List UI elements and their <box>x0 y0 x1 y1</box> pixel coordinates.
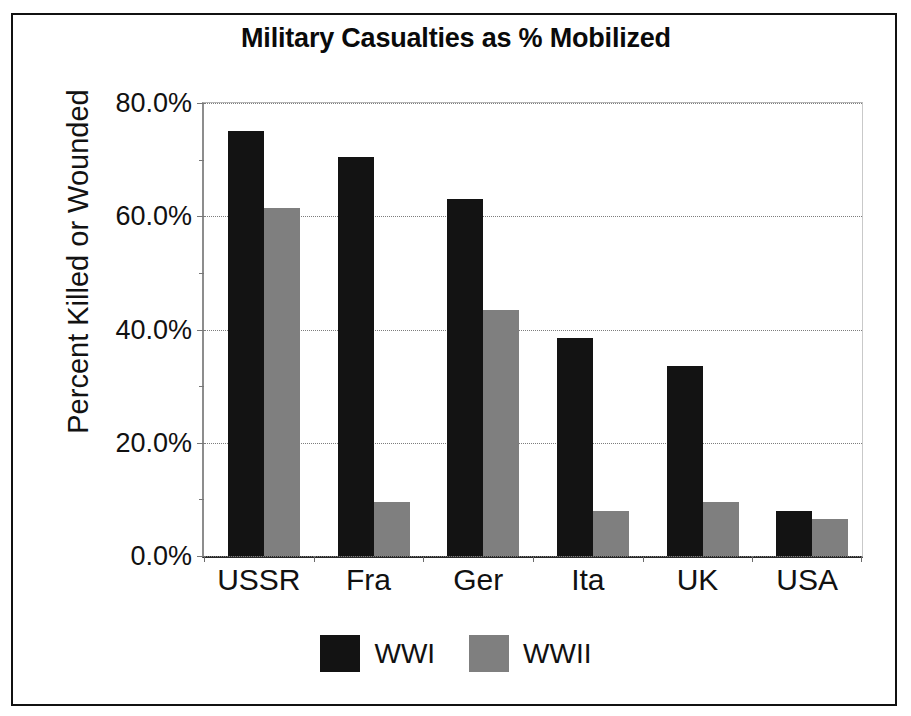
y-tick-label: 60.0% <box>115 201 192 232</box>
bar-group-ussr[interactable]: USSR <box>204 103 314 556</box>
y-tick-label: 40.0% <box>115 314 192 345</box>
bar-group-ita[interactable]: Ita <box>533 103 643 556</box>
x-tick-label-fra: Fra <box>346 563 391 597</box>
bar-ita-wwi[interactable] <box>557 338 593 556</box>
x-tick-mark <box>204 556 205 562</box>
x-tick-label-ita: Ita <box>571 563 604 597</box>
legend-swatch-wwii <box>469 635 509 672</box>
bar-usa-wwi[interactable] <box>776 511 812 556</box>
bar-fra-wwi[interactable] <box>338 157 374 556</box>
y-tick-label: 20.0% <box>115 427 192 458</box>
y-tick-mark <box>197 216 204 217</box>
plot-area: 0.0%20.0%40.0%60.0%80.0% USSRFraGerItaUK… <box>202 102 863 558</box>
y-axis-title: Percent Killed or Wounded <box>62 62 95 462</box>
x-tick-mark <box>861 556 862 562</box>
x-tick-label-usa: USA <box>776 563 838 597</box>
chart-frame: Military Casualties as % Mobilized Perce… <box>11 13 897 706</box>
bar-group-usa[interactable]: USA <box>752 103 862 556</box>
y-tick-mark <box>197 443 204 444</box>
bars-layer: USSRFraGerItaUKUSA <box>204 103 862 556</box>
chart-title: Military Casualties as % Mobilized <box>13 23 899 54</box>
chart-legend: WWIWWII <box>13 635 899 672</box>
legend-swatch-wwi <box>320 635 360 672</box>
x-tick-label-ger: Ger <box>453 563 503 597</box>
x-tick-label-ussr: USSR <box>217 563 300 597</box>
bar-ger-wwii[interactable] <box>483 310 519 556</box>
bar-ita-wwii[interactable] <box>593 511 629 556</box>
x-tick-mark <box>752 556 753 562</box>
x-tick-mark <box>314 556 315 562</box>
bar-ger-wwi[interactable] <box>447 199 483 556</box>
legend-label-wwi: WWI <box>374 638 435 670</box>
legend-item-wwi[interactable]: WWI <box>320 635 435 672</box>
bar-group-uk[interactable]: UK <box>643 103 753 556</box>
y-tick-mark <box>197 330 204 331</box>
y-tick-mark <box>197 103 204 104</box>
bar-group-fra[interactable]: Fra <box>314 103 424 556</box>
x-tick-label-uk: UK <box>677 563 719 597</box>
x-tick-mark <box>423 556 424 562</box>
x-tick-mark <box>643 556 644 562</box>
bar-ussr-wwi[interactable] <box>228 131 264 556</box>
bar-fra-wwii[interactable] <box>374 502 410 556</box>
y-tick-label: 0.0% <box>130 541 192 572</box>
bar-usa-wwii[interactable] <box>812 519 848 556</box>
y-tick-mark <box>197 556 204 557</box>
bar-uk-wwii[interactable] <box>703 502 739 556</box>
x-tick-mark <box>533 556 534 562</box>
bar-ussr-wwii[interactable] <box>264 208 300 556</box>
bar-group-ger[interactable]: Ger <box>423 103 533 556</box>
bar-uk-wwi[interactable] <box>667 366 703 556</box>
legend-item-wwii[interactable]: WWII <box>469 635 591 672</box>
legend-label-wwii: WWII <box>523 638 591 670</box>
y-tick-label: 80.0% <box>115 88 192 119</box>
